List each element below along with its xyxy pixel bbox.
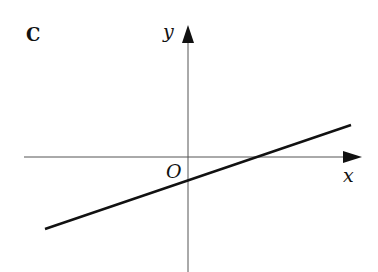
graph-line [45, 125, 351, 229]
diagram-canvas: C y O x [0, 0, 378, 272]
graph-svg [0, 0, 378, 272]
x-axis-arrow-icon [343, 151, 362, 163]
x-axis-label: x [343, 164, 354, 186]
y-axis-arrow-icon [182, 25, 194, 43]
y-axis-label: y [163, 20, 174, 42]
origin-label: O [166, 160, 182, 182]
panel-label: C [26, 24, 40, 45]
